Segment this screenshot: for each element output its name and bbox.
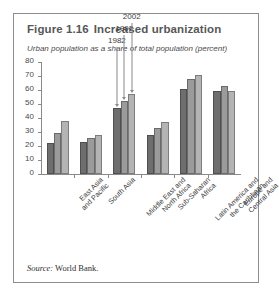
category-labels: East Asiaand PacificSouth AsiaMiddle Eas… [41, 176, 241, 236]
bar [213, 91, 220, 174]
bar [195, 75, 202, 174]
chart-plot-area: 01020304050607080 198219922002 [41, 62, 241, 174]
bar [180, 89, 187, 174]
category-label: East Asiaand Pacific [74, 176, 110, 212]
y-tick: 70 [38, 76, 41, 77]
chart-axes: 01020304050607080 198219922002 [41, 62, 241, 174]
annotation-arrow [124, 35, 125, 97]
y-tick: 0 [38, 174, 41, 175]
y-tick-label: 80 [25, 56, 34, 65]
figure-box: Figure 1.16Increased urbanization Urban … [13, 13, 259, 283]
bar [87, 138, 94, 174]
annotation-arrowhead-icon [130, 90, 134, 93]
bar [80, 142, 87, 174]
y-tick-label: 30 [25, 126, 34, 135]
figure-title-text: Increased urbanization [94, 23, 221, 35]
bar [161, 122, 168, 174]
y-tick-label: 40 [25, 112, 34, 121]
y-tick: 60 [38, 90, 41, 91]
bar [61, 121, 68, 174]
y-tick-label: 0 [30, 168, 34, 177]
bar [187, 79, 194, 174]
bar [128, 94, 135, 174]
annotation-arrowhead-icon [122, 97, 126, 100]
figure-number: Figure 1.16 [27, 23, 89, 35]
figure-subtitle: Urban population as a share of total pop… [27, 44, 227, 53]
y-tick-label: 50 [25, 98, 34, 107]
y-tick: 50 [38, 104, 41, 105]
y-axis-line [41, 62, 42, 174]
source-label: Source: [27, 263, 53, 273]
bar [54, 133, 61, 174]
y-tick: 80 [38, 62, 41, 63]
source-value: World Bank. [55, 263, 98, 273]
y-tick: 40 [38, 118, 41, 119]
bar [47, 143, 54, 174]
annotation-arrow [116, 47, 117, 104]
y-tick-label: 70 [25, 70, 34, 79]
bar [221, 86, 228, 174]
annotation-label: 2002 [123, 12, 141, 21]
bar [147, 135, 154, 174]
source-note: Source: World Bank. [27, 263, 98, 273]
bar [154, 128, 161, 174]
y-tick: 20 [38, 146, 41, 147]
y-tick-label: 10 [25, 154, 34, 163]
bar [121, 101, 128, 174]
y-tick: 30 [38, 132, 41, 133]
bar [228, 91, 235, 174]
y-tick: 10 [38, 160, 41, 161]
y-tick-label: 60 [25, 84, 34, 93]
category-label: South Asia [107, 176, 137, 206]
bar [113, 108, 120, 174]
y-tick-label: 20 [25, 140, 34, 149]
category-label-line: South Asia [107, 176, 137, 206]
annotation-arrow [131, 23, 132, 90]
annotation-arrowhead-icon [115, 104, 119, 107]
bar [95, 135, 102, 174]
